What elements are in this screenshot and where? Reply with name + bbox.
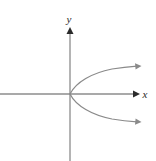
x-axis-label: x	[142, 88, 148, 100]
parabola-figure: x y	[0, 0, 156, 161]
coordinate-plot: x y	[0, 0, 156, 161]
y-axis-label: y	[66, 13, 72, 25]
figure-background	[0, 0, 156, 161]
